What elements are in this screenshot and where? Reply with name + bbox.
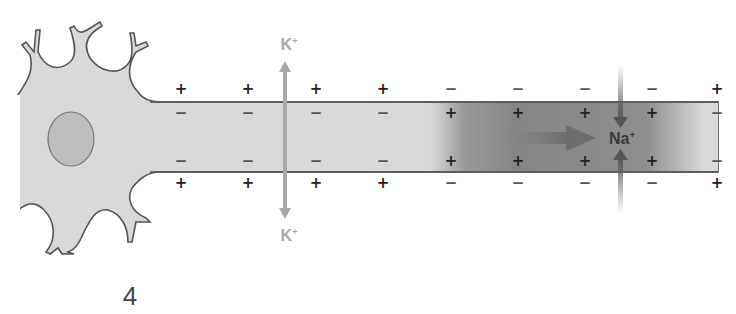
negative-charge-inside-top: − xyxy=(310,106,323,121)
negative-charge-outside-bottom: − xyxy=(512,176,525,191)
negative-charge-outside-bottom: − xyxy=(445,176,458,191)
k-ion-bottom-label: K+ xyxy=(280,228,297,244)
positive-charge-inside-bottom: + xyxy=(512,154,525,169)
positive-charge-inside-top: + xyxy=(445,106,458,121)
positive-charge-outside-bottom: + xyxy=(377,176,390,191)
positive-charge-outside-top: + xyxy=(711,82,724,97)
negative-charge-outside-top: − xyxy=(646,82,659,97)
negative-charge-outside-top: − xyxy=(512,82,525,97)
negative-charge-inside-bottom: − xyxy=(711,154,724,169)
negative-charge-inside-top: − xyxy=(242,106,255,121)
k-charge: + xyxy=(292,226,298,237)
positive-charge-outside-bottom: + xyxy=(711,176,724,191)
k-charge: + xyxy=(292,35,298,46)
k-symbol: K xyxy=(280,227,292,244)
k-ion-top-label: K+ xyxy=(280,37,297,53)
positive-charge-outside-bottom: + xyxy=(310,176,323,191)
negative-charge-inside-top: − xyxy=(711,106,724,121)
positive-charge-inside-top: + xyxy=(512,106,525,121)
positive-charge-outside-bottom: + xyxy=(242,176,255,191)
negative-charge-outside-bottom: − xyxy=(579,176,592,191)
negative-charge-inside-top: − xyxy=(175,106,188,121)
positive-charge-outside-bottom: + xyxy=(175,176,188,191)
negative-charge-inside-bottom: − xyxy=(175,154,188,169)
negative-charge-inside-bottom: − xyxy=(310,154,323,169)
negative-charge-inside-bottom: − xyxy=(377,154,390,169)
neuron-diagram xyxy=(0,0,736,314)
negative-charge-outside-bottom: − xyxy=(646,176,659,191)
positive-charge-inside-bottom: + xyxy=(445,154,458,169)
step-number: 4 xyxy=(123,281,137,312)
positive-charge-inside-top: + xyxy=(646,106,659,121)
positive-charge-inside-bottom: + xyxy=(579,154,592,169)
positive-charge-outside-top: + xyxy=(310,82,323,97)
negative-charge-outside-top: − xyxy=(579,82,592,97)
negative-charge-inside-top: − xyxy=(377,106,390,121)
positive-charge-outside-top: + xyxy=(377,82,390,97)
positive-charge-outside-top: + xyxy=(175,82,188,97)
nucleus xyxy=(48,112,94,166)
positive-charge-inside-bottom: + xyxy=(646,154,659,169)
k-symbol: K xyxy=(280,36,292,53)
na-ion-label: Na+ xyxy=(609,131,635,147)
negative-charge-inside-bottom: − xyxy=(242,154,255,169)
positive-charge-inside-top: + xyxy=(579,106,592,121)
negative-charge-outside-top: − xyxy=(445,82,458,97)
na-charge: + xyxy=(629,129,635,140)
positive-charge-outside-top: + xyxy=(242,82,255,97)
na-symbol: Na xyxy=(609,130,629,147)
